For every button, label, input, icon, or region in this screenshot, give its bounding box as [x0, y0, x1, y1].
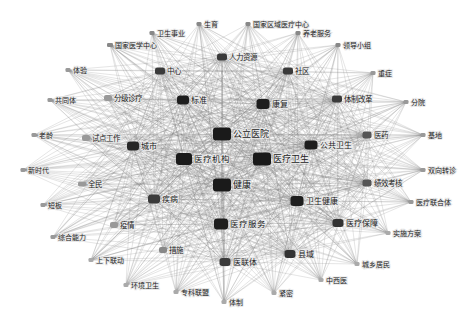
node-marker-icon [174, 290, 179, 294]
node-tizhi-gaige: 体制改革 [332, 94, 373, 104]
node-label: 县域 [298, 249, 314, 259]
node-label: 疾病 [162, 194, 178, 204]
node-label: 绩效考核 [374, 178, 403, 188]
node-label: 综合能力 [58, 233, 86, 242]
node-marker-icon [110, 222, 118, 228]
node-marker-icon [421, 168, 426, 172]
node-label: 卫生健康 [306, 196, 338, 206]
node-marker-icon [333, 219, 344, 227]
node-marker-icon [305, 141, 318, 150]
node-gongtongti: 共同体 [48, 96, 76, 105]
node-label: 城市 [141, 141, 157, 151]
node-label: 公立医院 [233, 128, 269, 139]
node-zhongzheng: 重症 [371, 69, 392, 78]
node-marker-icon [363, 180, 372, 187]
node-marker-icon [89, 258, 94, 262]
node-marker-icon [155, 68, 165, 75]
node-duanban: 短板 [41, 201, 62, 210]
node-chengshi: 城市 [127, 141, 157, 151]
node-marker-icon [176, 153, 192, 165]
node-laoling: 老龄 [32, 131, 53, 140]
node-label: 城乡居民 [362, 261, 390, 269]
node-label: 体制 [229, 298, 243, 307]
node-label: 分院 [411, 98, 425, 107]
node-label: 双向转诊 [428, 166, 456, 175]
node-marker-icon [197, 22, 202, 26]
node-label: 公共卫生 [320, 140, 352, 150]
node-label: 紧密 [279, 289, 293, 298]
node-label: 重症 [378, 69, 392, 78]
node-marker-icon [78, 182, 86, 187]
node-tiyan: 体验 [66, 66, 87, 75]
node-shishi-fangan: 实施方案 [386, 229, 421, 238]
node-marker-icon [332, 96, 342, 103]
node-label: 全民 [88, 179, 102, 189]
node-marker-icon [41, 203, 46, 207]
node-label: 医疗联合体 [416, 198, 451, 207]
node-label: 中西医 [326, 276, 347, 285]
node-label: 健康 [233, 179, 251, 190]
node-label: 医联体 [233, 257, 257, 267]
node-label: 新时代 [28, 166, 49, 175]
node-zhongxiyi: 中西医 [319, 276, 347, 285]
node-guojia-quyu: 国家区域医疗中心 [246, 20, 309, 29]
node-yiqing: 疫情 [110, 220, 135, 230]
node-fenyuan: 分院 [404, 98, 425, 107]
node-guojia-yixue-zhongxin: 国家医学中心 [107, 41, 157, 50]
node-marker-icon [257, 99, 270, 109]
node-marker-icon [82, 135, 90, 141]
node-marker-icon [148, 195, 160, 204]
node-label: 基地 [428, 131, 442, 140]
node-label: 中心 [167, 66, 182, 76]
node-jixiao-kaohe: 绩效考核 [363, 178, 403, 188]
node-marker-icon [291, 196, 304, 206]
node-marker-icon [363, 132, 372, 139]
node-shequ: 社区 [283, 66, 310, 76]
node-label: 专科联盟 [181, 288, 209, 297]
node-marker-icon [150, 31, 155, 35]
node-weisheng-jiankang: 卫生健康 [291, 196, 338, 206]
node-marker-icon [213, 179, 231, 192]
node-label: 分级诊疗 [114, 93, 143, 103]
node-label: 医疗保障 [346, 218, 378, 228]
node-zhongxin: 中心 [155, 66, 182, 76]
node-marker-icon [283, 68, 293, 75]
node-marker-icon [285, 250, 296, 258]
node-marker-icon [296, 31, 301, 35]
node-label: 措施 [169, 245, 184, 255]
node-label: 领导小组 [343, 41, 371, 50]
node-jibing: 疾病 [148, 194, 178, 204]
node-marker-icon [404, 100, 409, 104]
node-marker-icon [107, 43, 113, 47]
keyword-network-diagram: 公立医院医疗机构医疗卫生健康医疗服务标准康复城市公共卫生卫生健康疾病医疗保障县域… [0, 0, 472, 323]
node-xinshidai: 新时代 [21, 166, 49, 175]
node-label: 医疗卫生 [273, 153, 309, 164]
node-label: 环境卫生 [131, 281, 159, 290]
node-label: 医疗机构 [194, 154, 230, 164]
node-shuangxiang-zhuanzhen: 双向转诊 [421, 166, 456, 175]
node-marker-icon [319, 278, 324, 282]
node-marker-icon [214, 219, 228, 230]
node-label: 标准 [191, 95, 207, 105]
node-marker-icon [66, 68, 71, 72]
node-label: 人力资源 [229, 52, 258, 62]
node-label: 社区 [295, 66, 310, 76]
node-label: 上下联动 [96, 256, 124, 265]
node-yiliao-jigou: 医疗机构 [176, 153, 230, 165]
node-yiliao-lianheti: 医疗联合体 [409, 198, 451, 207]
node-marker-icon [21, 168, 26, 172]
node-marker-icon [409, 200, 414, 204]
node-marker-icon [336, 43, 341, 47]
node-label: 卫生事业 [157, 29, 185, 38]
node-marker-icon [386, 231, 391, 235]
node-yiliao-fuwu: 医疗服务 [214, 219, 266, 230]
node-label: 康复 [272, 99, 288, 109]
node-label: 体验 [73, 66, 87, 75]
node-yiyao: 医药 [363, 130, 389, 140]
node-label: 养老服务 [303, 29, 331, 38]
node-label: 试点工作 [92, 133, 121, 143]
node-label: 疫情 [120, 220, 135, 230]
node-marker-icon [51, 235, 56, 239]
node-marker-icon [355, 262, 360, 266]
node-marker-icon [421, 133, 426, 137]
